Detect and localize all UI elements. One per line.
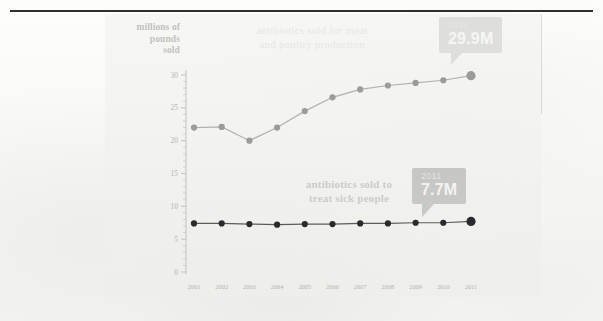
x-axis-tick-label: 2008 xyxy=(382,283,395,290)
series-point xyxy=(440,220,446,226)
x-axis-tick-label: 2006 xyxy=(326,283,339,290)
x-axis-tick-label: 2001 xyxy=(188,283,201,290)
y-axis-tick-label: 15 xyxy=(171,169,179,178)
x-axis-tick-label: 2005 xyxy=(298,283,311,290)
x-axis-tick-label: 2007 xyxy=(354,283,368,290)
x-axis-tick-label: 2004 xyxy=(271,283,285,290)
x-axis-tick-label: 2009 xyxy=(409,283,422,290)
series-point xyxy=(274,124,280,130)
series-point xyxy=(440,77,446,83)
series-point-highlighted xyxy=(466,71,475,80)
x-axis-tick-label: 2011 xyxy=(465,283,478,290)
y-axis-tick-label: 30 xyxy=(171,71,179,80)
series-point xyxy=(302,108,308,114)
series-point xyxy=(385,220,391,226)
x-axis-tick-label: 2003 xyxy=(243,283,256,290)
series-point-highlighted xyxy=(466,217,475,226)
series-point xyxy=(413,220,419,226)
series-point xyxy=(246,221,252,227)
series-point xyxy=(329,94,335,100)
y-axis-tick-label: 5 xyxy=(174,235,178,244)
y-axis-tick-label: 0 xyxy=(174,268,178,277)
series-line xyxy=(194,76,471,141)
x-axis-tick-label: 2002 xyxy=(215,283,228,290)
y-axis-tick-label: 25 xyxy=(171,103,179,112)
y-axis-tick-label: 10 xyxy=(171,202,179,211)
series-point xyxy=(246,138,252,144)
series-point xyxy=(357,86,363,92)
series-point xyxy=(274,222,280,228)
series-point xyxy=(191,124,197,130)
series-point xyxy=(191,220,197,226)
series-point xyxy=(219,220,225,226)
series-point xyxy=(385,82,391,88)
series-point xyxy=(302,221,308,227)
y-axis-tick-label: 20 xyxy=(171,136,179,145)
series-point xyxy=(329,221,335,227)
x-axis-tick-label: 2010 xyxy=(437,283,450,290)
chart-plot: 0510152025302001200220032004200520062007… xyxy=(0,0,603,321)
series-point xyxy=(219,124,225,130)
series-point xyxy=(413,80,419,86)
series-point xyxy=(357,220,363,226)
